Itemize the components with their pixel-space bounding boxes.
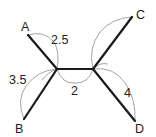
length-label-a-j1: 2.5 (51, 33, 68, 47)
arc-j1-j2 (57, 69, 93, 83)
length-label-b-j1: 3.5 (9, 73, 26, 87)
node-label-c: C (136, 8, 145, 22)
edge-c-j2 (93, 17, 132, 69)
node-label-a: A (21, 20, 30, 34)
diagram-canvas: A B C D 2.5 3.5 2 4 (0, 0, 156, 137)
length-label-d-j2: 4 (124, 86, 131, 100)
node-label-d: D (135, 122, 144, 136)
node-label-b: B (15, 122, 23, 136)
edge-b-j1 (24, 69, 57, 119)
length-label-j1-j2: 2 (71, 84, 78, 98)
graph-diagram: A B C D 2.5 3.5 2 4 (0, 0, 156, 137)
